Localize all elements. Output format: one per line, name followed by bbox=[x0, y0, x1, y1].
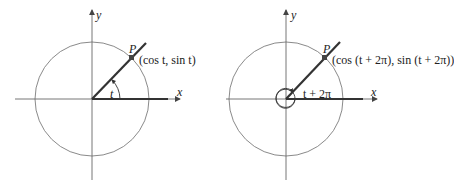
point-p-label: P bbox=[323, 43, 330, 55]
right-diagram bbox=[226, 10, 377, 180]
y-axis-label: y bbox=[96, 9, 101, 21]
point-p-label: P bbox=[129, 43, 136, 55]
angle-label: t bbox=[110, 88, 113, 100]
left-diagram bbox=[15, 10, 180, 180]
x-axis-label: x bbox=[177, 86, 182, 98]
coordinate-label: (cos (t + 2π), sin (t + 2π)) bbox=[332, 54, 454, 66]
x-axis-label: x bbox=[371, 86, 376, 98]
angle-label: t + 2π bbox=[303, 88, 331, 100]
coordinate-label: (cos t, sin t) bbox=[139, 54, 196, 66]
y-axis-label: y bbox=[291, 9, 296, 21]
